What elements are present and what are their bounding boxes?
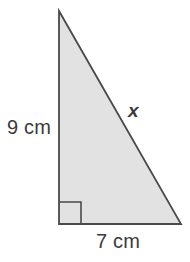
geometry-figure: 9 cm 7 cm x xyxy=(0,0,190,262)
triangle-shape xyxy=(59,11,181,224)
hypotenuse-label: x xyxy=(128,101,139,121)
horizontal-leg-label: 7 cm xyxy=(96,231,140,251)
vertical-leg-label: 9 cm xyxy=(7,117,51,137)
